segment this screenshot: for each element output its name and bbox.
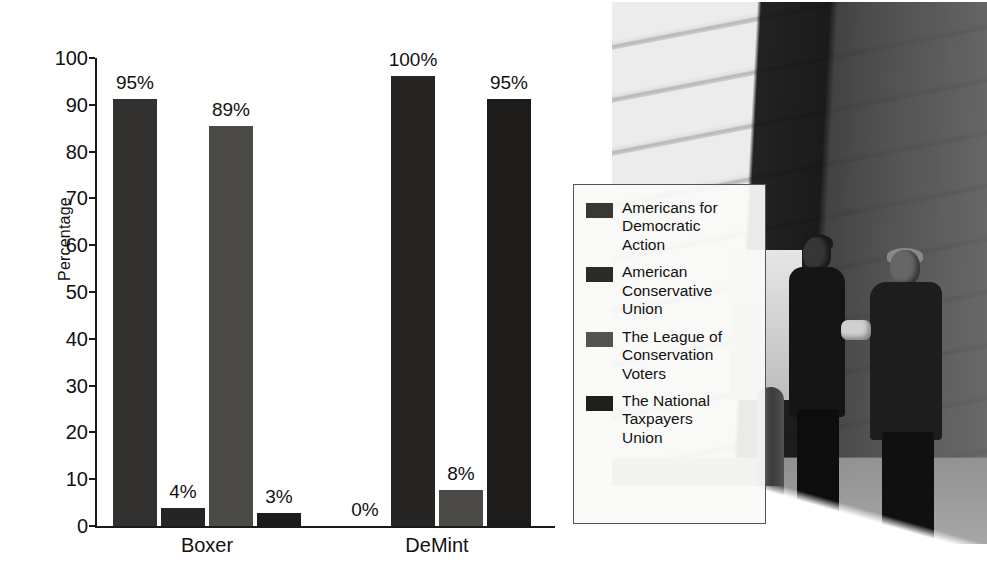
- y-axis-tick-20: 20: [0, 421, 88, 444]
- y-axis-tickmark-90: [89, 104, 95, 106]
- y-axis-tick-70: 70: [0, 187, 88, 210]
- legend-item-label-2: The League ofConservationVoters: [622, 328, 722, 383]
- chart-legend: Americans forDemocraticActionAmericanCon…: [573, 184, 766, 524]
- y-axis-tickmark-80: [89, 151, 95, 153]
- legend-swatch-icon-2: [586, 332, 613, 347]
- y-axis-tick-0: 0: [0, 515, 88, 538]
- y-axis-tick-60: 60: [0, 234, 88, 257]
- legend-swatch-icon-1: [586, 267, 613, 282]
- legend-item-2[interactable]: The League ofConservationVoters: [586, 328, 755, 383]
- head-right: [890, 250, 920, 286]
- torso-right: [870, 282, 942, 440]
- y-axis-tickmark-60: [89, 244, 95, 246]
- photo-bottom-fade: [612, 544, 987, 570]
- x-axis-group-label-demint: DeMint: [405, 534, 468, 557]
- y-axis-tick-80: 80: [0, 140, 88, 163]
- y-axis-tickmark-10: [89, 478, 95, 480]
- y-axis-tick-10: 10: [0, 468, 88, 491]
- y-axis-tickmark-20: [89, 431, 95, 433]
- y-axis-tickmark-30: [89, 385, 95, 387]
- torso-left: [789, 267, 845, 417]
- x-axis-group-labels: BoxerDeMint: [95, 0, 555, 578]
- y-axis-tick-30: 30: [0, 374, 88, 397]
- y-axis-tick-90: 90: [0, 93, 88, 116]
- handshake: [841, 320, 871, 340]
- legend-item-3[interactable]: The NationalTaxpayersUnion: [586, 392, 755, 447]
- legend-item-0[interactable]: Americans forDemocraticAction: [586, 199, 755, 254]
- figure-root: Percentage 1009080706050403020100 95%4%8…: [0, 0, 987, 578]
- person-left-figure: [787, 237, 849, 527]
- y-axis-tickmark-100: [89, 57, 95, 59]
- y-axis-tickmark-40: [89, 338, 95, 340]
- y-axis-tickmark-70: [89, 197, 95, 199]
- head-left: [803, 237, 831, 271]
- legend-swatch-icon-3: [586, 396, 613, 411]
- y-axis-tickmark-50: [89, 291, 95, 293]
- y-axis-tick-50: 50: [0, 281, 88, 304]
- legend-item-label-3: The NationalTaxpayersUnion: [622, 392, 710, 447]
- legend-item-1[interactable]: AmericanConservativeUnion: [586, 263, 755, 318]
- y-axis-tickmark-0: [89, 525, 95, 527]
- y-axis-tick-40: 40: [0, 327, 88, 350]
- y-axis-tick-100: 100: [0, 47, 88, 70]
- legend-item-label-1: AmericanConservativeUnion: [622, 263, 712, 318]
- x-axis-group-label-boxer: Boxer: [181, 534, 233, 557]
- legend-item-label-0: Americans forDemocraticAction: [622, 199, 718, 254]
- bar-chart: Percentage 1009080706050403020100 95%4%8…: [0, 0, 600, 578]
- legend-swatch-icon-0: [586, 203, 613, 218]
- y-axis-tick-labels: 1009080706050403020100: [0, 0, 88, 578]
